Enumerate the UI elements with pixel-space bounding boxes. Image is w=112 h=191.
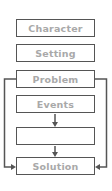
problem-box: Problem [16,70,95,88]
events-box: Events [16,95,95,113]
right-arrowhead-icon [95,164,100,170]
solution-box: Solution [16,157,95,175]
character-box: Character [16,19,95,37]
character-label: Character [28,23,82,34]
setting-box: Setting [16,44,95,62]
events-label: Events [37,99,74,110]
left-bracket-connector [5,79,17,167]
solution-label: Solution [32,161,78,172]
blank-box [16,127,95,145]
right-bracket-connector [95,79,107,167]
problem-label: Problem [33,74,79,85]
setting-label: Setting [35,48,76,59]
